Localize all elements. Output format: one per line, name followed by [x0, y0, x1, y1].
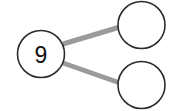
connector-whole-to-part-top: [63, 27, 120, 44]
number-bond-figure: 9: [0, 0, 179, 111]
connector-whole-to-part-bottom: [63, 63, 120, 83]
part-bottom-circle[interactable]: [118, 62, 165, 109]
whole-value-label: 9: [35, 42, 48, 68]
part-top-circle[interactable]: [118, 2, 165, 49]
